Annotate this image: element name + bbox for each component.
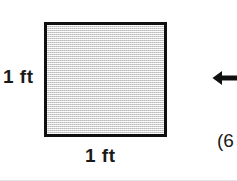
clipped-parenthetical-text: (6 — [217, 131, 234, 150]
dimension-label-left: 1 ft — [3, 67, 34, 86]
figure-canvas: 1 ft 1 ft (6 — [0, 0, 237, 181]
arrow-left-icon — [211, 66, 237, 90]
scan-artifact-line — [0, 180, 237, 181]
dimension-label-bottom: 1 ft — [85, 146, 116, 165]
shaded-square — [44, 22, 167, 137]
